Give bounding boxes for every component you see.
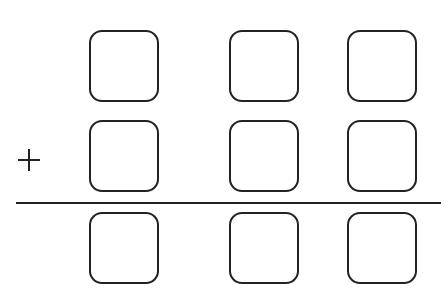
sum-digit-box-2[interactable] xyxy=(229,212,299,284)
sum-divider-line xyxy=(16,202,441,204)
plus-icon-vertical xyxy=(28,149,30,171)
addend1-digit-box-2[interactable] xyxy=(229,30,299,102)
sum-digit-box-1[interactable] xyxy=(89,212,159,284)
addend2-digit-box-2[interactable] xyxy=(229,120,299,192)
addend1-digit-box-3[interactable] xyxy=(347,30,417,102)
addend2-digit-box-1[interactable] xyxy=(89,120,159,192)
plus-icon xyxy=(16,146,44,174)
addend2-digit-box-3[interactable] xyxy=(347,120,417,192)
addend1-digit-box-1[interactable] xyxy=(89,30,159,102)
sum-digit-box-3[interactable] xyxy=(347,212,417,284)
